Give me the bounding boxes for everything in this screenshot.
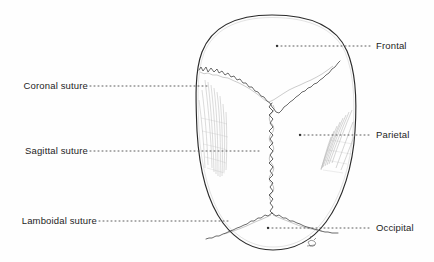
right-parietal-shading — [321, 110, 355, 170]
label-frontal-text: Frontal — [376, 40, 407, 51]
left-parietal-shading — [199, 80, 227, 177]
label-coronal-suture: Coronal suture — [0, 81, 88, 91]
coronal-suture-path — [199, 61, 340, 113]
leader-lines-group — [90, 46, 372, 228]
right-parietal-shading-cross — [323, 140, 353, 173]
label-lamboidal-suture-text: Lamboidal suture — [22, 215, 97, 226]
label-sagittal-suture-text: Sagittal suture — [25, 145, 88, 156]
label-frontal: Frontal — [376, 41, 407, 51]
label-occipital-text: Occipital — [376, 222, 414, 233]
label-coronal-suture-text: Coronal suture — [24, 80, 88, 91]
anchor-dot-occipital — [267, 227, 269, 229]
sagittal-suture-path — [269, 103, 274, 214]
label-parietal-text: Parietal — [376, 129, 409, 140]
anchor-dot-frontal — [276, 45, 278, 47]
label-occipital: Occipital — [376, 223, 414, 233]
anchor-dot-parietal — [299, 134, 301, 136]
label-sagittal-suture: Sagittal suture — [0, 146, 88, 156]
label-parietal: Parietal — [376, 130, 409, 140]
label-lamboidal-suture: Lamboidal suture — [0, 216, 97, 226]
skull-diagram-figure: Coronal suture Sagittal suture Lamboidal… — [0, 0, 434, 262]
skull-outline-inner-echo — [198, 18, 354, 248]
